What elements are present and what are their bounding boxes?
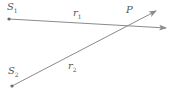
label-s2-text: S	[8, 65, 15, 76]
label-p-text: P	[126, 4, 133, 15]
source-point-s2	[10, 84, 13, 87]
label-r2: r2	[68, 61, 77, 73]
label-s2: S2	[8, 66, 19, 78]
ray-r2	[12, 11, 156, 86]
diagram-lines	[0, 0, 171, 93]
label-r2-sub: 2	[73, 66, 77, 73]
ray-r1	[9, 19, 166, 28]
label-s2-sub: 2	[15, 71, 19, 78]
label-p: P	[126, 5, 133, 15]
label-r1: r1	[73, 8, 82, 20]
label-s1-sub: 1	[14, 7, 18, 14]
source-point-s1	[7, 17, 10, 20]
label-r1-sub: 1	[78, 13, 82, 20]
diagram-canvas: S1 r1 P S2 r2	[0, 0, 171, 93]
label-s1: S1	[7, 2, 18, 14]
label-s1-text: S	[7, 1, 14, 12]
